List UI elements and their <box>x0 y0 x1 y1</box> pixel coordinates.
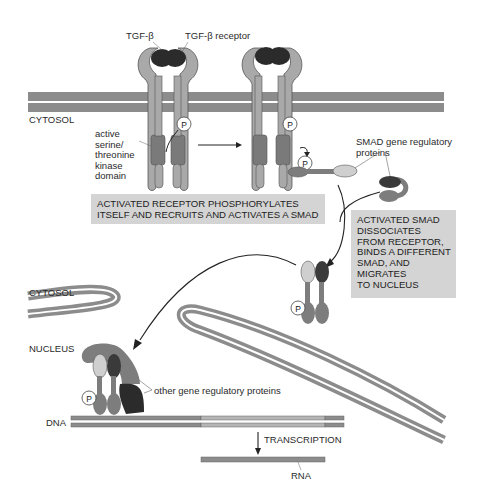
dna-label: DNA <box>46 417 66 428</box>
other-proteins-label: other gene regulatory proteins <box>154 385 281 396</box>
transcription-complex: P <box>82 343 144 415</box>
svg-text:P: P <box>295 304 301 314</box>
smad-recruited <box>288 165 357 177</box>
svg-text:P: P <box>287 120 293 130</box>
plasma-membrane <box>28 92 444 112</box>
transcription-label: TRANSCRIPTION <box>264 434 342 445</box>
smad-proteins-label: SMAD gene regulatory proteins <box>356 136 452 158</box>
smad-dimer: P <box>291 261 329 324</box>
rna-strand <box>201 457 325 462</box>
svg-text:P: P <box>86 394 92 404</box>
tgf-beta-label: TGF-β <box>126 30 154 41</box>
cytosol-label-top: CYTOSOL <box>29 114 74 125</box>
dna-strands <box>71 416 344 427</box>
svg-text:P: P <box>302 159 308 169</box>
step2-caption: ACTIVATED SMAD DISSOCIATES FROM RECEPTOR… <box>351 210 456 298</box>
rna-label: RNA <box>291 470 311 481</box>
nucleus-label: NUCLEUS <box>29 343 74 354</box>
step1-caption: ACTIVATED RECEPTOR PHOSPHORYLATES ITSELF… <box>91 194 325 224</box>
tgf-beta-receptor-label: TGF-β receptor <box>185 30 250 41</box>
tgf-beta-receptor-inactive: P <box>138 48 198 191</box>
kinase-domain-label: active serine/ threonine kinase domain <box>95 129 135 182</box>
svg-text:P: P <box>181 120 187 130</box>
cytosol-label-bottom: CYTOSOL <box>29 287 74 298</box>
smad-free <box>379 176 406 202</box>
